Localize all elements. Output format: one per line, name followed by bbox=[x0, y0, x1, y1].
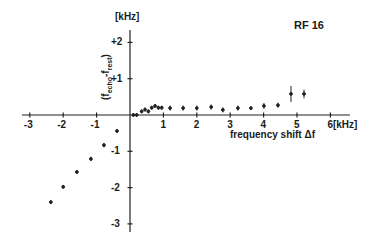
y-tick-label: -2 bbox=[111, 183, 120, 193]
y-label-minus: -f bbox=[100, 70, 111, 77]
y-tick-label: +1 bbox=[111, 74, 122, 84]
data-point bbox=[182, 107, 185, 110]
x-tick-label: -1 bbox=[91, 120, 100, 130]
y-tick-label: -3 bbox=[111, 219, 120, 229]
data-point bbox=[221, 109, 224, 112]
y-label-open: (f bbox=[100, 93, 111, 100]
data-point bbox=[103, 144, 106, 147]
data-point bbox=[290, 93, 293, 96]
data-point bbox=[132, 114, 135, 117]
x-tick-label: -3 bbox=[24, 120, 33, 130]
x-tick-label: -2 bbox=[57, 120, 66, 130]
data-point bbox=[160, 106, 163, 109]
data-point bbox=[90, 158, 93, 161]
data-point bbox=[135, 114, 138, 117]
data-point bbox=[75, 171, 78, 174]
x-tick-label: 4 bbox=[261, 120, 267, 130]
data-point bbox=[250, 107, 253, 110]
data-point bbox=[277, 104, 280, 107]
data-point bbox=[157, 106, 160, 109]
data-point bbox=[116, 130, 119, 133]
data-point bbox=[62, 185, 65, 188]
y-tick-label: -1 bbox=[111, 146, 120, 156]
data-point bbox=[169, 107, 172, 110]
y-tick-label: +2 bbox=[111, 37, 122, 47]
x-tick-label: 6[kHz] bbox=[327, 120, 357, 130]
data-points bbox=[49, 86, 305, 204]
data-point bbox=[303, 93, 306, 96]
data-point bbox=[210, 106, 213, 109]
data-point bbox=[140, 110, 143, 113]
x-label: frequency shift Δf bbox=[230, 130, 315, 140]
x-tick-label: 1 bbox=[160, 120, 166, 130]
x-tick-label: 3 bbox=[227, 120, 233, 130]
x-tick-label: 2 bbox=[194, 120, 200, 130]
data-point bbox=[144, 108, 147, 111]
data-point bbox=[154, 105, 157, 108]
y-label-close: ) bbox=[100, 54, 111, 57]
data-point bbox=[236, 107, 239, 110]
data-point bbox=[195, 107, 198, 110]
panel-id-label: RF 16 bbox=[294, 20, 324, 31]
data-point bbox=[263, 105, 266, 108]
y-label-sub-rest: rest bbox=[106, 57, 113, 70]
data-point bbox=[49, 201, 52, 204]
x-tick-label: 5 bbox=[294, 120, 300, 130]
data-point bbox=[147, 110, 150, 113]
data-point bbox=[150, 106, 153, 109]
y-unit-label: [kHz] bbox=[115, 12, 139, 22]
